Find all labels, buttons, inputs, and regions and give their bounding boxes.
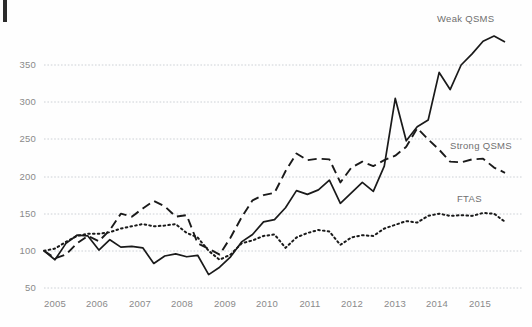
x-axis-tick-label: 2006 (77, 298, 117, 309)
x-axis-tick-label: 2012 (332, 298, 372, 309)
y-axis-tick-label: 300 (8, 96, 36, 107)
x-axis-tick-label: 2011 (290, 298, 330, 309)
x-axis-tick-label: 2005 (35, 298, 75, 309)
y-axis-tick-label: 350 (8, 59, 36, 70)
line-chart-plot (0, 0, 532, 327)
series-label-strong-qsms: Strong QSMS (450, 140, 512, 151)
y-axis-tick-label: 50 (8, 282, 36, 293)
x-axis-tick-label: 2008 (162, 298, 202, 309)
x-axis-tick-label: 2013 (375, 298, 415, 309)
chart-container: 35030025020015010050 2005200620072008200… (0, 0, 532, 327)
series-line-weak-qsms (44, 36, 505, 275)
x-axis-tick-label: 2009 (205, 298, 245, 309)
series-label-ftas: FTAS (457, 193, 482, 204)
series-label-weak-qsms: Weak QSMS (437, 13, 494, 24)
series-line-strong-qsms (44, 128, 505, 258)
x-axis-tick-label: 2015 (460, 298, 500, 309)
x-axis-tick-label: 2010 (247, 298, 287, 309)
y-axis-tick-label: 200 (8, 171, 36, 182)
y-axis-tick-label: 150 (8, 208, 36, 219)
x-axis-tick-label: 2014 (417, 298, 457, 309)
y-axis-tick-label: 250 (8, 133, 36, 144)
series-path-group (44, 36, 505, 275)
y-axis-tick-label: 100 (8, 245, 36, 256)
x-axis-tick-label: 2007 (120, 298, 160, 309)
